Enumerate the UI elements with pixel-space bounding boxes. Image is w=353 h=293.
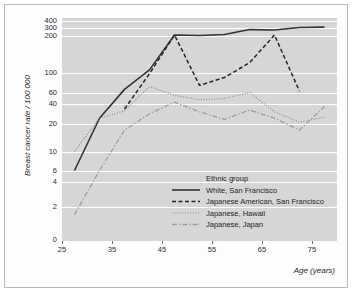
legend-label-2: Japanese, Hawaii bbox=[206, 209, 266, 218]
x-tick-label: 55 bbox=[208, 245, 216, 254]
y-tick-label: 4 bbox=[53, 177, 57, 186]
x-tick-label: 75 bbox=[308, 245, 316, 254]
x-tick-label: 25 bbox=[58, 245, 66, 254]
y-axis-title: Breast cancer rate / 100 000 bbox=[23, 75, 32, 177]
y-tick-label: 20 bbox=[49, 119, 57, 128]
chart-page: 024610204060100200300400 253545556575 Br… bbox=[0, 0, 353, 293]
y-tick-label: 100 bbox=[44, 68, 57, 77]
x-axis-tick-labels: 253545556575 bbox=[58, 245, 316, 254]
x-tick-label: 45 bbox=[158, 245, 166, 254]
y-tick-label: 6 bbox=[53, 166, 57, 175]
y-tick-label: 200 bbox=[44, 31, 57, 40]
y-tick-label: 60 bbox=[49, 88, 57, 97]
x-tick-label: 35 bbox=[108, 245, 116, 254]
x-axis-tick-marks bbox=[63, 241, 313, 244]
x-tick-label: 65 bbox=[258, 245, 266, 254]
x-axis-title: Age (years) bbox=[293, 266, 336, 275]
y-axis-tick-labels: 024610204060100200300400 bbox=[44, 16, 57, 244]
y-tick-label: 0 bbox=[53, 235, 57, 244]
y-tick-label: 2 bbox=[53, 202, 57, 211]
legend-label-3: Japanese, Japan bbox=[206, 220, 263, 229]
y-tick-label: 10 bbox=[49, 147, 57, 156]
breast-cancer-rate-line-chart: 024610204060100200300400 253545556575 Br… bbox=[0, 0, 353, 293]
y-tick-label: 400 bbox=[44, 16, 57, 25]
legend-label-0: White, San Francisco bbox=[206, 186, 277, 195]
legend-label-1: Japanese American, San Francisco bbox=[206, 197, 324, 206]
legend-title: Ethnic group bbox=[206, 174, 248, 183]
y-tick-label: 40 bbox=[49, 99, 57, 108]
